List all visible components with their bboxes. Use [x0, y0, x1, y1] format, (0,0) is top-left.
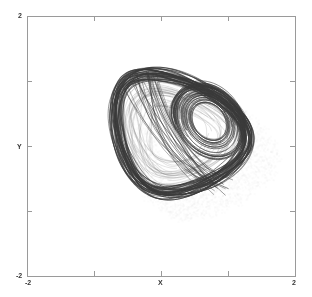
attractor-plot	[0, 0, 312, 297]
x-max-label: 2	[292, 279, 296, 287]
y-axis-label: Y	[17, 143, 22, 151]
y-min-label: -2	[16, 272, 22, 280]
x-axis-label: X	[158, 279, 163, 287]
y-max-label: 2	[18, 12, 22, 20]
x-min-label: -2	[25, 279, 31, 287]
